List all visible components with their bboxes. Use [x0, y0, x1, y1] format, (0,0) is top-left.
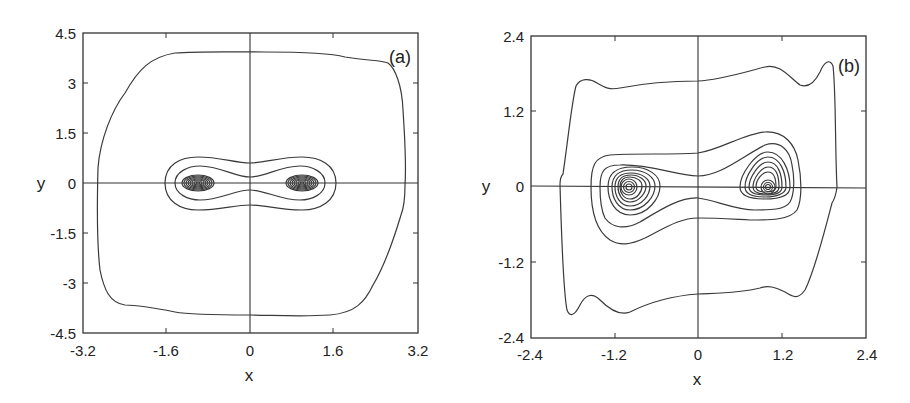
- xtick-a-0: -3.2: [70, 342, 96, 359]
- xtick-a-2: 0: [246, 342, 254, 359]
- xtick-b-3: 1.2: [773, 346, 794, 363]
- ytick-a-3: 0: [68, 175, 76, 192]
- ytick-b-0: 2.4: [503, 28, 524, 45]
- xtick-b-2: 0: [694, 346, 702, 363]
- ytick-a-2: 1.5: [55, 125, 76, 142]
- ytick-b-3: -1.2: [498, 254, 524, 271]
- ytick-a-6: -4.5: [50, 325, 76, 342]
- ylabel-a: y: [37, 174, 46, 193]
- ylabel-b: y: [482, 177, 491, 196]
- outer-orbit-a: [97, 52, 405, 316]
- xtick-a-3: 1.6: [323, 342, 344, 359]
- xtick-a-4: 3.2: [408, 342, 429, 359]
- right-well-orbits-b: [740, 152, 790, 199]
- ytick-a-1: 3: [68, 75, 76, 92]
- xlabel-a: x: [245, 366, 254, 385]
- panel-label-b: (b): [838, 56, 860, 76]
- ytick-a-4: -1.5: [50, 225, 76, 242]
- xtick-b-0: -2.4: [517, 346, 543, 363]
- ytick-a-0: 4.5: [55, 25, 76, 42]
- xtick-a-1: -1.6: [153, 342, 179, 359]
- xtick-b-1: -1.2: [601, 346, 627, 363]
- ytick-a-5: -3: [63, 275, 76, 292]
- xlabel-b: x: [693, 370, 702, 389]
- ytick-b-4: -2.4: [498, 329, 524, 346]
- ytick-b-1: 1.2: [503, 103, 524, 120]
- ytick-b-2: 0: [516, 178, 524, 195]
- panel-label-a: (a): [389, 47, 411, 67]
- left-well-orbits-b: [608, 167, 660, 215]
- panel-a: 4.5 3 1.5 0 -1.5 -3 -4.5 -3.2 -1.6 0 1.6…: [37, 25, 429, 385]
- figure: 4.5 3 1.5 0 -1.5 -3 -4.5 -3.2 -1.6 0 1.6…: [0, 0, 910, 403]
- panel-b: 2.4 1.2 0 -1.2 -2.4 -2.4 -1.2 0 1.2 2.4 …: [482, 28, 878, 389]
- xtick-b-4: 2.4: [857, 346, 878, 363]
